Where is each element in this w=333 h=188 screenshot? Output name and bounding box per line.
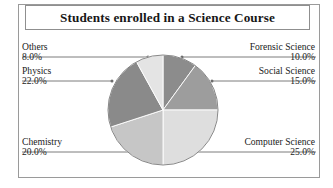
pie-label-others-percent: 8.0% bbox=[22, 52, 48, 62]
pie-label-others: Others 8.0% bbox=[22, 42, 48, 62]
pie-slices bbox=[108, 55, 218, 165]
pie-chart-plot bbox=[0, 0, 333, 188]
pie-slice-computer-science bbox=[163, 110, 218, 165]
pie-label-computer-science: Computer Science 25.0% bbox=[244, 137, 315, 157]
pie-label-computer-science-percent: 25.0% bbox=[244, 147, 315, 157]
pie-label-forensic-science-percent: 10.0% bbox=[250, 52, 315, 62]
pie-label-physics-percent: 22.0% bbox=[22, 76, 51, 86]
pie-label-forensic-science: Forensic Science 10.0% bbox=[250, 42, 315, 62]
pie-label-social-science: Social Science 15.0% bbox=[259, 66, 315, 86]
pie-label-chemistry: Chemistry 20.0% bbox=[22, 137, 62, 157]
pie-label-chemistry-percent: 20.0% bbox=[22, 147, 62, 157]
pie-label-social-science-percent: 15.0% bbox=[259, 76, 315, 86]
pie-label-physics: Physics 22.0% bbox=[22, 66, 51, 86]
